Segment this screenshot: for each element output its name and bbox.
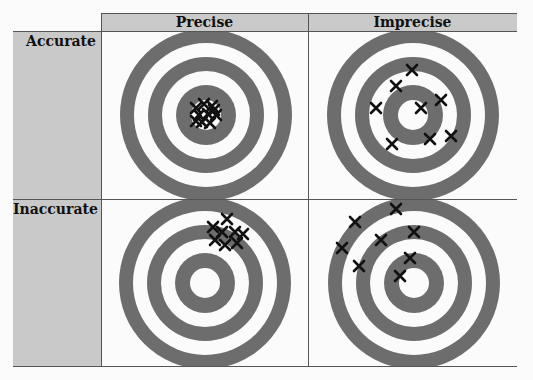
grid-line-bottom	[13, 366, 517, 367]
grid-line-row-divider	[13, 199, 517, 200]
target-inaccurate-imprecise	[328, 197, 500, 369]
grid-line-header-bottom	[13, 31, 517, 32]
target-inaccurate-precise	[119, 197, 291, 369]
targets-layer	[0, 0, 533, 380]
target-accurate-imprecise	[327, 29, 499, 201]
grid-line-label-divider	[101, 13, 102, 367]
grid-line-header-top	[101, 13, 517, 14]
target-accurate-precise	[120, 29, 292, 201]
grid-line-column-divider	[308, 13, 309, 367]
